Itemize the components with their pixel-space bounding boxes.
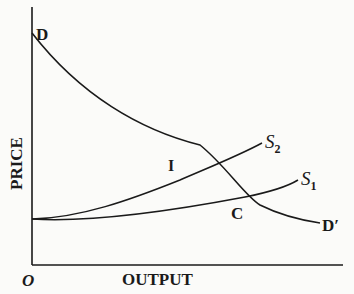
- supply-curve-2: [32, 143, 262, 219]
- point-c-label: C: [231, 205, 243, 222]
- supply-2-subscript: 2: [275, 142, 281, 156]
- supply-1-label: S1: [301, 169, 317, 192]
- origin-label: O: [22, 272, 34, 289]
- demand-start-label: D: [36, 26, 48, 43]
- supply-2-label: S2: [265, 132, 281, 155]
- diagram-canvas: [0, 0, 354, 294]
- demand-end-label: D′: [322, 217, 339, 234]
- supply-2-letter: S: [265, 131, 275, 152]
- y-axis-label: PRICE: [8, 134, 25, 194]
- point-i-label: I: [168, 158, 174, 174]
- supply-1-letter: S: [301, 168, 311, 189]
- x-axis-label: OUTPUT: [122, 271, 193, 288]
- demand-curve: [32, 33, 320, 223]
- supply-1-subscript: 1: [311, 179, 317, 193]
